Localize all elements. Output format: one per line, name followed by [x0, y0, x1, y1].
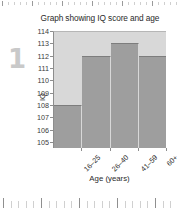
y-axis-tick-label: 109 [37, 89, 49, 96]
ruler-tick [176, 2, 177, 5]
ruler-tick [8, 2, 9, 5]
y-axis-tick-label: 106 [37, 126, 49, 133]
y-axis: IQ 114113112111110109108107106105 [30, 31, 53, 148]
bar [139, 56, 166, 148]
ruler-tick [152, 1, 153, 6]
ruler-tick [146, 2, 147, 5]
ruler-tick [79, 198, 80, 208]
ruler-tick [134, 2, 135, 5]
ruler-tick [110, 2, 111, 5]
ruler-tick [44, 2, 45, 5]
ruler-tick [116, 2, 117, 5]
ruler-tick [170, 2, 171, 5]
ruler-tick [117, 198, 118, 208]
ruler-tick [11, 201, 12, 208]
y-axis-tick-label: 112 [38, 52, 49, 59]
ruler-tick [140, 2, 141, 5]
ruler-tick [49, 201, 50, 208]
x-axis-tick-label: 26–40 [110, 153, 131, 174]
ruler-tick [86, 2, 87, 5]
ruler-tick [33, 201, 34, 208]
ruler-tick [32, 1, 33, 6]
ruler-tick [170, 201, 171, 208]
ruler-tick [87, 201, 88, 208]
ruler-tick [64, 201, 65, 208]
bar-series [54, 32, 166, 148]
ruler-tick [158, 2, 159, 5]
x-axis-tick-mark [81, 148, 82, 151]
ruler-tick [109, 201, 110, 208]
y-axis-tick-label: 113 [38, 40, 49, 47]
y-axis-tick-label: 114 [38, 28, 49, 35]
x-axis-tick-mark [110, 148, 111, 151]
bar [82, 56, 110, 148]
chart-title: Graph showing IQ score and age [33, 13, 167, 23]
x-axis-tick-mark [138, 148, 139, 151]
x-axis-tick-label: 60+ [164, 153, 179, 168]
ruler-tick [92, 1, 93, 6]
ruler-tick [20, 2, 21, 5]
bar [111, 43, 139, 148]
ruler-tick [104, 2, 105, 5]
ruler-tick [140, 201, 141, 208]
ruler-tick [18, 201, 19, 208]
ruler-tick [26, 2, 27, 5]
page-ruler-top [0, 0, 179, 9]
y-axis-tick-label: 110 [38, 77, 49, 84]
page-ruler-bottom [0, 191, 179, 212]
ruler-tick [122, 1, 123, 6]
y-axis-tick-label: 107 [37, 114, 49, 121]
ruler-tick [155, 198, 156, 208]
ruler-tick [3, 198, 4, 208]
ruler-tick [132, 201, 133, 208]
ruler-tick [94, 201, 95, 208]
bar-chart-figure: Graph showing IQ score and age IQ 114113… [0, 9, 179, 191]
ruler-tick [147, 201, 148, 208]
ruler-tick [56, 201, 57, 208]
ruler-tick [68, 2, 69, 5]
ruler-tick [128, 2, 129, 5]
ruler-tick [41, 198, 42, 208]
y-axis-tick-label: 108 [37, 101, 49, 108]
ruler-tick [80, 2, 81, 5]
y-axis-tick-label: 111 [38, 64, 49, 71]
y-axis-tick-label: 105 [37, 138, 49, 145]
plot-area [53, 31, 166, 148]
ruler-tick [56, 2, 57, 5]
ruler-tick [26, 201, 27, 208]
bar [54, 105, 82, 148]
x-axis-tick-label: 16–25 [82, 153, 103, 174]
ruler-tick [125, 201, 126, 208]
ruler-tick [38, 2, 39, 5]
x-axis-tick-mark [166, 148, 167, 151]
ruler-tick [2, 1, 3, 6]
ruler-tick [50, 2, 51, 5]
ruler-tick [102, 201, 103, 208]
ruler-tick [74, 2, 75, 5]
ruler-tick [62, 1, 63, 6]
x-axis-tick-label: 41–59 [138, 153, 159, 174]
x-axis-title: Age (years) [53, 174, 166, 183]
ruler-tick [164, 2, 165, 5]
ruler-tick [98, 2, 99, 5]
ruler-tick [163, 201, 164, 208]
ruler-tick [14, 2, 15, 5]
ruler-tick [71, 201, 72, 208]
